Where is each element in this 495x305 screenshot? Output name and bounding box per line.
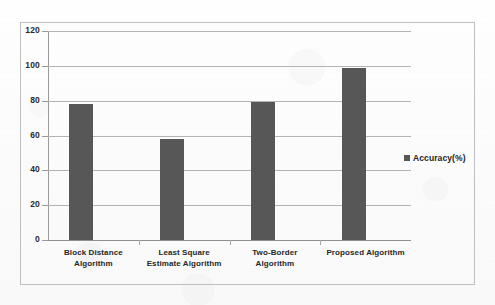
x-axis-label-2: Two-BorderAlgorithm (230, 247, 321, 269)
bar-3 (342, 68, 366, 240)
y-axis-label-0: 0 (0, 235, 40, 244)
legend-swatch-accuracy (404, 155, 410, 161)
figure-canvas: 020406080100120 Block DistanceAlgorithmL… (0, 0, 495, 305)
y-axis-label-40: 40 (0, 165, 40, 174)
bar-1 (160, 139, 184, 240)
legend: Accuracy(%) (404, 153, 466, 163)
gridline-120 (48, 31, 411, 32)
x-tick-3 (320, 240, 321, 245)
x-axis-label-1: Least SquareEstimate Algorithm (139, 247, 230, 269)
legend-label-accuracy: Accuracy(%) (413, 153, 466, 163)
y-axis-label-100: 100 (0, 61, 40, 70)
x-axis-label-0: Block DistanceAlgorithm (48, 247, 139, 269)
plot-area (48, 31, 411, 240)
x-tick-1 (139, 240, 140, 245)
x-tick-2 (230, 240, 231, 245)
y-axis-label-120: 120 (0, 26, 40, 35)
y-axis-label-20: 20 (0, 200, 40, 209)
y-axis-label-80: 80 (0, 96, 40, 105)
y-axis-label-60: 60 (0, 131, 40, 140)
bar-2 (251, 102, 275, 240)
x-axis-label-3: Proposed Algorithm (320, 247, 411, 258)
bar-0 (69, 104, 93, 240)
